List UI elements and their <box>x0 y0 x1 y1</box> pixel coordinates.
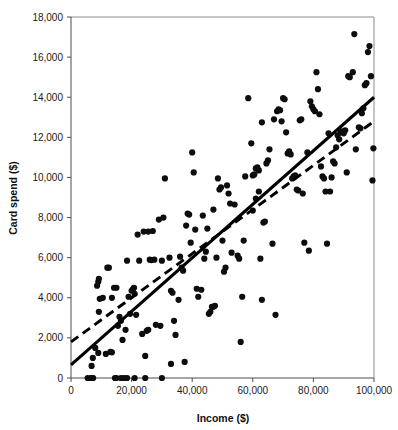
data-point <box>106 265 112 271</box>
data-point <box>90 355 96 361</box>
y-tick-label: 14,000 <box>32 92 63 103</box>
data-point <box>171 318 177 324</box>
data-point <box>278 118 284 124</box>
data-point <box>277 107 283 113</box>
data-point <box>150 228 156 234</box>
data-point <box>344 169 350 175</box>
data-point <box>89 363 95 369</box>
data-point <box>210 206 216 212</box>
data-point <box>328 174 334 180</box>
data-point <box>95 350 101 356</box>
data-point <box>259 119 265 125</box>
x-tick-label: 0 <box>68 385 74 396</box>
y-tick-label: 8,000 <box>38 212 63 223</box>
data-point <box>318 163 324 169</box>
data-point <box>366 43 372 49</box>
data-point <box>159 375 165 381</box>
data-point <box>368 73 374 79</box>
data-point <box>288 151 294 157</box>
y-tick-label: 12,000 <box>32 132 63 143</box>
data-point <box>200 212 206 218</box>
data-point <box>219 238 225 244</box>
data-point <box>351 31 357 37</box>
data-point <box>175 297 181 303</box>
data-point <box>96 276 102 282</box>
x-tick-label: 80,000 <box>298 385 329 396</box>
data-point <box>256 188 262 194</box>
x-axis-tick-labels: 020,00040,00060,00080,000100,000 <box>68 385 392 396</box>
x-tick-label: 40,000 <box>177 385 208 396</box>
data-point <box>257 256 263 262</box>
data-point <box>133 312 139 318</box>
data-point <box>342 127 348 133</box>
data-point <box>259 297 265 303</box>
data-point <box>271 116 277 122</box>
data-point <box>132 375 138 381</box>
data-point <box>265 157 271 163</box>
y-axis-title: Card spend ($) <box>7 161 19 235</box>
data-point <box>228 250 234 256</box>
data-point <box>157 323 163 329</box>
data-point <box>316 111 322 117</box>
data-point <box>124 258 130 264</box>
data-point <box>357 125 363 131</box>
data-point <box>109 349 115 355</box>
data-point <box>313 69 319 75</box>
solid-regression-line <box>71 97 374 365</box>
data-point <box>168 361 174 367</box>
data-point <box>321 175 327 181</box>
data-point <box>369 177 375 183</box>
data-point <box>96 309 102 315</box>
data-point <box>145 327 151 333</box>
data-point <box>245 95 251 101</box>
data-point <box>282 96 288 102</box>
data-points <box>85 31 377 381</box>
y-axis-tick-labels: 02,0004,0006,0008,00010,00012,00014,0001… <box>32 12 63 384</box>
data-point <box>365 49 371 55</box>
data-point <box>136 258 142 264</box>
data-point <box>204 225 210 231</box>
data-point <box>90 375 96 381</box>
chart-canvas: 02,0004,0006,0008,00010,00012,00014,0001… <box>0 0 398 430</box>
scatter-chart-figure: 02,0004,0006,0008,00010,00012,00014,0001… <box>0 0 398 430</box>
data-point <box>266 146 272 152</box>
data-point <box>169 290 175 296</box>
data-point <box>198 287 204 293</box>
data-point <box>215 175 221 181</box>
data-point <box>189 149 195 155</box>
data-point <box>218 184 224 190</box>
data-point <box>166 255 172 261</box>
data-point <box>156 216 162 222</box>
data-point <box>241 238 247 244</box>
data-point <box>315 86 321 92</box>
data-point <box>177 254 183 260</box>
data-point <box>142 353 148 359</box>
data-point <box>238 339 244 345</box>
y-tick-label: 16,000 <box>32 52 63 63</box>
data-point <box>324 241 330 247</box>
data-point <box>301 240 307 246</box>
data-point <box>109 295 115 301</box>
data-point <box>195 294 201 300</box>
data-point <box>336 136 342 142</box>
y-tick-label: 2,000 <box>38 332 63 343</box>
y-tick-label: 0 <box>57 373 63 384</box>
fit-lines <box>71 97 374 365</box>
x-tick-label: 60,000 <box>238 385 269 396</box>
data-point <box>186 211 192 217</box>
data-point <box>151 257 157 263</box>
data-point <box>332 160 338 166</box>
data-point <box>363 80 369 86</box>
data-point <box>119 337 125 343</box>
data-point <box>350 69 356 75</box>
data-point <box>242 173 248 179</box>
data-point <box>269 241 275 247</box>
data-point <box>256 167 262 173</box>
data-point <box>283 129 289 135</box>
y-tick-label: 18,000 <box>32 12 63 23</box>
data-point <box>353 146 359 152</box>
data-point <box>236 256 242 262</box>
data-point <box>232 201 238 207</box>
data-point <box>212 303 218 309</box>
x-tick-label: 100,000 <box>356 385 393 396</box>
